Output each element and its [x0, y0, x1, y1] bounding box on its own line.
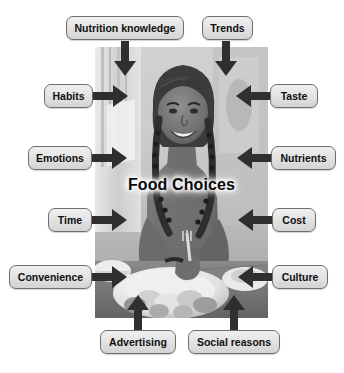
factor-box-nutrients[interactable]: Nutrients — [271, 146, 336, 170]
arrow-trends-icon — [214, 41, 238, 77]
arrow-taste-icon — [235, 84, 271, 108]
arrow-social-reasons-icon — [222, 294, 246, 330]
factor-box-convenience[interactable]: Convenience — [9, 265, 92, 289]
factor-box-habits[interactable]: Habits — [44, 84, 93, 108]
arrow-habits-icon — [93, 84, 129, 108]
factor-box-social-reasons[interactable]: Social reasons — [188, 330, 280, 354]
factor-box-taste[interactable]: Taste — [270, 84, 318, 108]
arrow-convenience-icon — [92, 265, 128, 289]
factor-box-culture[interactable]: Culture — [272, 265, 328, 289]
arrow-culture-icon — [237, 265, 273, 289]
factor-box-emotions[interactable]: Emotions — [28, 146, 92, 170]
arrow-time-icon — [92, 208, 128, 232]
factor-box-advertising[interactable]: Advertising — [100, 330, 176, 354]
arrow-emotions-icon — [92, 146, 128, 170]
arrow-advertising-icon — [126, 294, 150, 330]
arrow-nutrients-icon — [236, 146, 272, 170]
factor-box-nutrition-knowledge[interactable]: Nutrition knowledge — [66, 16, 184, 40]
factor-box-trends[interactable]: Trends — [202, 16, 253, 40]
factor-box-time[interactable]: Time — [48, 208, 92, 232]
factor-box-cost[interactable]: Cost — [272, 208, 316, 232]
arrow-nutrition-knowledge-icon — [113, 41, 137, 77]
arrow-cost-icon — [237, 208, 273, 232]
food-choices-diagram: Food Choices Nutrition knowledge Trends … — [0, 0, 344, 373]
